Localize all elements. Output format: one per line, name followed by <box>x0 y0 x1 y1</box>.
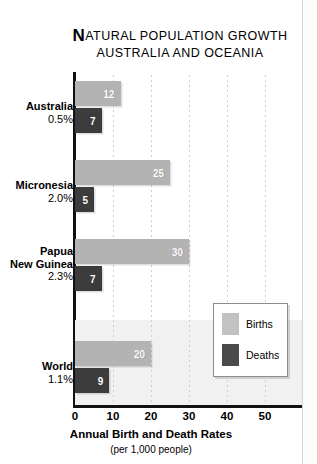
bar-births-papua-new-guinea[interactable]: 30 <box>75 239 189 264</box>
category-rate-micronesia: 2.0% <box>3 192 73 205</box>
legend-item-births[interactable]: Births <box>222 313 273 335</box>
bar-deaths-micronesia[interactable]: 5 <box>75 187 94 212</box>
legend-swatch-deaths-icon <box>222 344 239 366</box>
title-rest: ATURAL POPULATION GROWTH <box>85 29 287 43</box>
page-margin <box>303 0 317 464</box>
category-name-australia: Australia <box>3 100 73 113</box>
category-label-column: Australia 0.5% Micronesia 2.0% Papua New… <box>0 75 73 415</box>
title-drop-cap: N <box>73 26 86 45</box>
legend-label-deaths: Deaths <box>246 349 279 361</box>
x-tick-0: 0 <box>72 410 78 422</box>
chart-subtitle: AUSTRALIA AND OCEANIA <box>60 45 300 62</box>
x-tick-30: 30 <box>183 410 196 422</box>
x-axis-title: Annual Birth and Death Rates <box>0 428 302 440</box>
bar-deaths-papua-new-guinea[interactable]: 7 <box>75 266 102 291</box>
bar-value-deaths-world: 9 <box>98 375 104 386</box>
category-name-papua-line1: Papua <box>3 245 73 258</box>
bar-value-births-papua-new-guinea: 30 <box>172 246 183 257</box>
bar-births-world[interactable]: 20 <box>75 341 151 366</box>
bar-value-births-world: 20 <box>134 348 145 359</box>
category-rate-papua-new-guinea: 2.3% <box>3 270 73 283</box>
category-label-micronesia: Micronesia 2.0% <box>3 179 73 204</box>
category-name-papua-line2: New Guinea <box>3 258 73 271</box>
bar-value-deaths-australia: 7 <box>90 115 96 126</box>
legend-item-deaths[interactable]: Deaths <box>222 344 279 366</box>
x-tick-10: 10 <box>107 410 120 422</box>
category-name-micronesia: Micronesia <box>3 179 73 192</box>
bar-deaths-world[interactable]: 9 <box>75 368 109 393</box>
gridline-30 <box>189 75 190 405</box>
x-tick-20: 20 <box>145 410 158 422</box>
bar-value-births-australia: 12 <box>103 88 114 99</box>
category-rate-world: 1.1% <box>3 373 73 386</box>
x-tick-50: 50 <box>259 410 272 422</box>
x-tick-40: 40 <box>221 410 234 422</box>
category-name-world: World <box>3 360 73 373</box>
category-label-australia: Australia 0.5% <box>3 100 73 125</box>
x-axis-line <box>73 405 302 408</box>
chart-page: NATURAL POPULATION GROWTH AUSTRALIA AND … <box>0 0 317 464</box>
bar-births-australia[interactable]: 12 <box>75 81 121 106</box>
chart-title-block: NATURAL POPULATION GROWTH AUSTRALIA AND … <box>60 28 300 62</box>
category-rate-australia: 0.5% <box>3 113 73 126</box>
bar-births-micronesia[interactable]: 25 <box>75 160 170 185</box>
chart-legend: Births Deaths <box>213 303 288 377</box>
bar-value-deaths-papua-new-guinea: 7 <box>90 273 96 284</box>
category-label-papua-new-guinea: Papua New Guinea 2.3% <box>3 245 73 283</box>
chart-title: NATURAL POPULATION GROWTH <box>60 28 300 45</box>
bar-deaths-australia[interactable]: 7 <box>75 108 102 133</box>
bar-value-deaths-micronesia: 5 <box>82 194 88 205</box>
category-label-world: World 1.1% <box>3 360 73 385</box>
bar-value-births-micronesia: 25 <box>153 167 164 178</box>
legend-label-births: Births <box>246 318 273 330</box>
x-axis-subtitle: (per 1,000 people) <box>0 444 302 455</box>
legend-swatch-births-icon <box>222 313 239 335</box>
